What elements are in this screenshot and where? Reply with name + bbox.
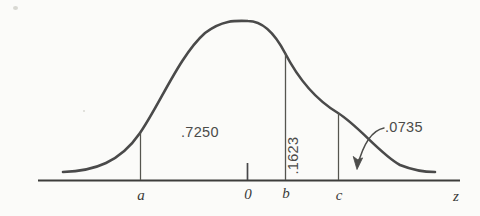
area-label-middle: .1623 xyxy=(286,137,301,175)
area-label-left: .7250 xyxy=(181,125,219,140)
callout-arrow-head xyxy=(353,156,362,169)
axis-tick-label-a: a xyxy=(126,188,156,203)
normal-curve-figure: .7250 .1623 .0735 a 0 b c z xyxy=(0,0,480,216)
area-label-right: .0735 xyxy=(385,120,423,135)
axis-tick-label-zero: 0 xyxy=(233,187,263,202)
axis-tick-label-c: c xyxy=(324,188,354,203)
curve-drawing xyxy=(0,0,480,216)
bell-curve-path xyxy=(63,21,435,172)
scan-speck xyxy=(13,6,18,10)
axis-tick-label-b: b xyxy=(271,186,301,201)
scan-speck xyxy=(83,110,85,112)
axis-label-z: z xyxy=(441,189,471,204)
